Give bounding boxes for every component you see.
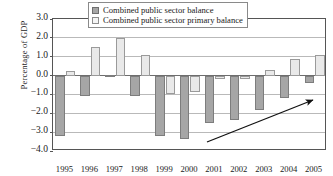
bar <box>305 76 315 84</box>
bar <box>141 55 151 76</box>
bar <box>55 76 65 136</box>
x-axis-tick-label: 1995 <box>56 164 73 174</box>
bar <box>116 38 126 76</box>
bar <box>265 70 275 76</box>
bar-group <box>103 19 128 149</box>
bar <box>190 76 200 92</box>
bar <box>130 76 140 97</box>
bar-group <box>277 19 302 149</box>
bar-group <box>178 19 203 149</box>
y-axis-tick-label: 1.0 <box>16 51 48 61</box>
y-axis-tick-labels: 3.02.01.00.0−1.0−2.0−3.0−4.0 <box>14 0 48 176</box>
bar <box>166 76 176 95</box>
legend-item-label: Combined public sector balance <box>103 6 214 15</box>
bar <box>155 76 165 136</box>
y-axis-tick-label: −4.0 <box>16 145 48 155</box>
bar <box>80 76 90 97</box>
bar-group <box>153 19 178 149</box>
light-swatch-icon <box>92 17 99 24</box>
y-axis-tick-label: 3.0 <box>16 13 48 23</box>
bar-group <box>252 19 277 149</box>
bar <box>91 47 101 75</box>
y-axis-tick-label: 0.0 <box>16 70 48 80</box>
y-axis-tick-mark <box>50 151 53 152</box>
legend-item-label: Combined public sector primary balance <box>103 16 243 25</box>
y-axis-tick-label: −3.0 <box>16 126 48 136</box>
dark-swatch-icon <box>92 7 99 14</box>
chart-legend: Combined public sector balance Combined … <box>88 2 248 28</box>
bar <box>240 76 250 80</box>
y-axis-tick-label: 2.0 <box>16 32 48 42</box>
bar <box>180 76 190 139</box>
x-axis-tick-label: 2000 <box>180 164 197 174</box>
bar <box>215 76 225 80</box>
x-axis-tick-label: 1997 <box>106 164 123 174</box>
chart-figure: Percentage of GDP 3.02.01.00.0−1.0−2.0−3… <box>0 0 333 176</box>
bar <box>66 71 76 76</box>
bar <box>230 76 240 120</box>
bar <box>255 76 265 110</box>
legend-item: Combined public sector balance <box>92 5 243 15</box>
legend-item: Combined public sector primary balance <box>92 15 243 25</box>
bar-group <box>202 19 227 149</box>
bar <box>290 59 300 76</box>
x-axis-tick-label: 2003 <box>255 164 272 174</box>
bar-group <box>227 19 252 149</box>
y-axis-tick-label: −1.0 <box>16 88 48 98</box>
x-axis-tick-label: 2005 <box>305 164 322 174</box>
x-axis-tick-label: 1996 <box>81 164 98 174</box>
x-axis-tick-label: 2002 <box>230 164 247 174</box>
plot-area <box>52 18 326 150</box>
x-axis-tick-label: 1998 <box>131 164 148 174</box>
bar-group <box>53 19 78 149</box>
x-axis-tick-label: 2004 <box>280 164 297 174</box>
x-axis-tick-label: 1999 <box>155 164 172 174</box>
x-axis-tick-label: 2001 <box>205 164 222 174</box>
y-axis-tick-label: −2.0 <box>16 107 48 117</box>
bar-group <box>302 19 327 149</box>
bar-group <box>128 19 153 149</box>
bar <box>315 55 325 76</box>
bar <box>205 76 215 123</box>
bar <box>105 75 115 77</box>
bar <box>280 76 290 99</box>
bar-group <box>78 19 103 149</box>
